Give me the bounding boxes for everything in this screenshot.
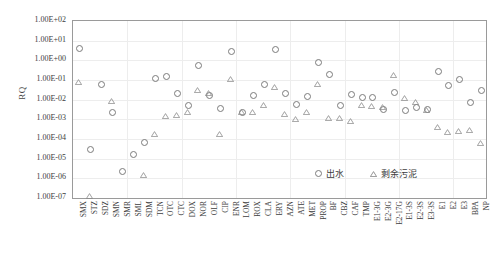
- data-point-circle: [76, 45, 83, 52]
- plot-area: [72, 20, 487, 199]
- x-tick-label: ERY: [276, 201, 284, 216]
- x-tick-label: CTC: [178, 201, 186, 216]
- x-tick-label: ENR: [233, 201, 241, 216]
- x-tick-label: OLF: [211, 201, 219, 215]
- data-point-circle: [98, 81, 105, 88]
- x-tick-label: E2-3G: [385, 201, 393, 221]
- y-tick-label: 1.00E-02: [20, 95, 66, 103]
- legend-item-effluent: 出水: [315, 167, 344, 180]
- x-tick-label: E1-3S: [406, 201, 414, 220]
- data-point-circle: [272, 46, 279, 53]
- y-tick-label: 1.00E+02: [20, 16, 66, 24]
- data-point-circle: [261, 81, 268, 88]
- x-tick-label: CAF: [352, 201, 360, 216]
- x-tick-label: TMP: [363, 201, 371, 216]
- x-tick-label: MET: [309, 201, 317, 217]
- data-point-circle: [402, 107, 409, 114]
- y-tick-label: 1.00E-03: [20, 114, 66, 122]
- vertical-gridline: [453, 21, 454, 198]
- horizontal-gridline: [73, 41, 486, 42]
- y-tick-label: 1.00E+00: [20, 55, 66, 63]
- triangle-marker-icon: [370, 169, 377, 179]
- horizontal-gridline: [73, 178, 486, 179]
- vertical-gridline: [236, 21, 237, 198]
- x-tick-label: CLA: [265, 201, 273, 216]
- x-tick-label: E2-3S: [417, 201, 425, 220]
- data-point-circle: [87, 146, 94, 153]
- x-tick-label: PROP: [320, 201, 328, 220]
- horizontal-gridline: [73, 159, 486, 160]
- x-tick-label: NP: [483, 201, 491, 211]
- x-tick-label: CBZ: [341, 201, 349, 216]
- x-tick-label: SMR: [124, 201, 132, 217]
- circle-marker-icon: [315, 170, 322, 177]
- horizontal-gridline: [73, 139, 486, 140]
- data-point-circle: [478, 87, 485, 94]
- data-point-circle: [315, 59, 322, 66]
- y-tick-label: 1.00E+01: [20, 36, 66, 44]
- x-tick-label: SDM: [146, 201, 154, 217]
- horizontal-gridline: [73, 100, 486, 101]
- y-tick-label: 1.00E-06: [20, 173, 66, 181]
- x-tick-label: SMX: [80, 201, 88, 217]
- data-point-circle: [435, 68, 442, 75]
- x-tick-label: NOR: [200, 201, 208, 217]
- legend-label-sludge: 剩余污泥: [381, 167, 417, 180]
- x-tick-label: CIP: [222, 201, 230, 213]
- scatter-chart: RQ 1.00E+021.00E+011.00E+001.00E-011.00E…: [0, 0, 503, 258]
- x-tick-label: E3: [461, 201, 469, 209]
- data-point-circle: [174, 90, 181, 97]
- y-axis-tick-labels: 1.00E+021.00E+011.00E+001.00E-011.00E-02…: [16, 0, 66, 258]
- x-tick-label: E1: [439, 201, 447, 209]
- x-tick-label: TCN: [157, 201, 165, 216]
- data-point-circle: [348, 91, 355, 98]
- x-tick-label: BF: [330, 201, 338, 210]
- vertical-gridline: [127, 21, 128, 198]
- x-tick-label: ATE: [298, 201, 306, 215]
- x-tick-label: E2: [450, 201, 458, 209]
- legend-item-sludge: 剩余污泥: [370, 167, 417, 180]
- x-tick-label: SDZ: [102, 201, 110, 215]
- legend-label-effluent: 出水: [326, 167, 344, 180]
- x-tick-label: SMN: [113, 201, 121, 217]
- data-point-circle: [326, 71, 333, 78]
- x-axis-tick-labels: SMXSTZSDZSMNSMRSMLSDMTCNOTCCTCDOXNOROLFC…: [72, 201, 487, 258]
- chart-legend: 出水 剩余污泥: [315, 167, 417, 180]
- x-tick-label: AZN: [287, 201, 295, 216]
- data-point-circle: [359, 94, 366, 101]
- x-tick-label: E2-17G: [396, 201, 404, 225]
- x-tick-label: DOX: [189, 201, 197, 217]
- horizontal-gridline: [73, 119, 486, 120]
- horizontal-gridline: [73, 60, 486, 61]
- y-tick-label: 1.00E-01: [20, 75, 66, 83]
- x-tick-label: E1-3G: [374, 201, 382, 221]
- x-tick-label: SML: [135, 201, 143, 216]
- y-tick-label: 1.00E-04: [20, 134, 66, 142]
- y-tick-label: 1.00E-07: [20, 193, 66, 201]
- data-point-circle: [337, 102, 344, 109]
- x-tick-label: STZ: [91, 201, 99, 214]
- y-tick-label: 1.00E-05: [20, 154, 66, 162]
- vertical-gridline: [290, 21, 291, 198]
- data-point-circle: [130, 151, 137, 158]
- x-tick-label: OTC: [167, 201, 175, 216]
- x-tick-label: ROX: [254, 201, 262, 217]
- x-tick-label: LOM: [243, 201, 251, 218]
- x-tick-label: E3-3S: [428, 201, 436, 220]
- x-tick-label: BPA: [472, 201, 480, 215]
- data-point-circle: [250, 92, 257, 99]
- data-point-circle: [109, 109, 116, 116]
- horizontal-gridline: [73, 80, 486, 81]
- vertical-gridline: [182, 21, 183, 198]
